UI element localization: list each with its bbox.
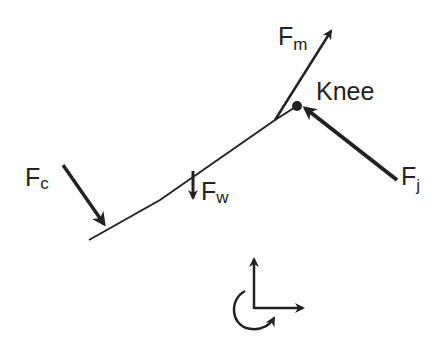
coordinate-axes-icon — [234, 259, 303, 329]
joint-force-label: Fj — [401, 162, 420, 195]
knee-label: Knee — [316, 77, 374, 105]
free-body-diagram: Knee Fm Fj Fc Fw — [0, 0, 446, 355]
muscle-force-label: Fm — [278, 22, 307, 54]
contact-force-arrow — [63, 165, 104, 224]
knee-joint-dot — [292, 101, 302, 111]
joint-force-arrow — [305, 108, 397, 180]
weight-force-label: Fw — [201, 177, 229, 207]
contact-force-label: Fc — [25, 163, 49, 193]
